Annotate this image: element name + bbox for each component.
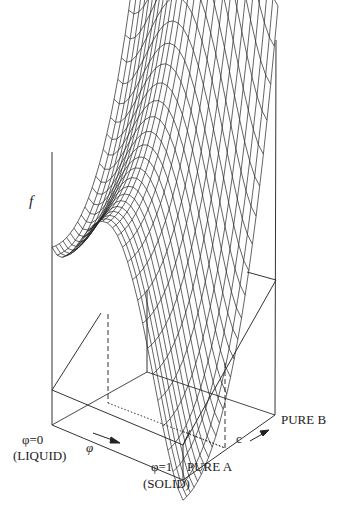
solid-label: (SOLID) <box>143 477 190 491</box>
c-arrow-icon <box>250 430 269 441</box>
pure-a-label: PURE A <box>187 460 232 474</box>
bounding-box <box>52 40 276 480</box>
minima-projections <box>108 314 225 448</box>
phi-arrow-icon <box>93 433 120 443</box>
phi-axis-label: φ <box>86 441 93 455</box>
liquid-label: (LIQUID) <box>13 449 66 463</box>
free-energy-surface-figure <box>0 0 346 511</box>
common-tangent-line <box>108 403 225 448</box>
wireframe-surface <box>52 0 278 500</box>
c-axis-label: c <box>236 432 242 446</box>
pure-b-label: PURE B <box>281 413 326 427</box>
f-axis-label: f <box>29 194 33 208</box>
phi-one-label: φ=1 <box>151 460 172 474</box>
phi-zero-label: φ=0 <box>22 433 43 447</box>
